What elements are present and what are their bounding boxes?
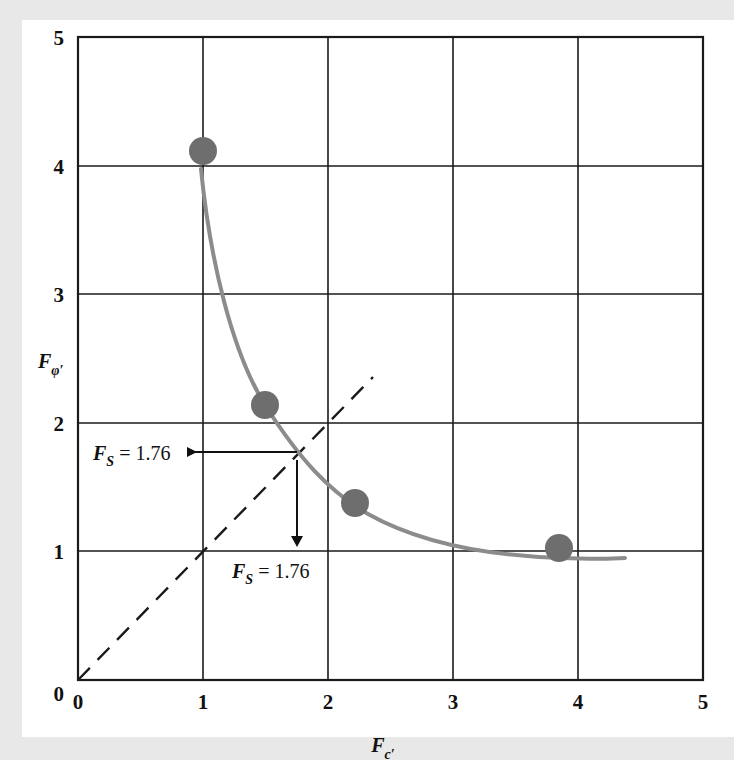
y-axis-title-sub: φ′ [51, 363, 63, 378]
data-point-2 [251, 391, 279, 419]
plot-frame [78, 37, 703, 680]
figure-page: FS = 1.76 FS = 1.76 5 4 3 2 1 0 0 1 2 3 … [0, 0, 734, 773]
x-axis-tick-labels: 0 1 2 3 4 5 [73, 690, 709, 714]
x-axis-title-lead: F [370, 734, 385, 756]
x-tick-label-4: 4 [573, 690, 584, 714]
x-tick-label-0: 0 [73, 690, 84, 714]
x-tick-label-2: 2 [323, 690, 334, 714]
y-tick-label-3: 3 [54, 283, 65, 307]
annotation-fs-v-lead: F [231, 560, 246, 582]
y-tick-label-0: 0 [54, 682, 65, 706]
x-axis-title-sub: c′ [385, 747, 395, 762]
annotation-fs-v-tail: = 1.76 [253, 560, 309, 582]
y-tick-label-5: 5 [54, 26, 65, 50]
data-point-3 [341, 489, 369, 517]
x-tick-label-1: 1 [198, 690, 209, 714]
annotation-fs-horizontal: FS = 1.76 [92, 442, 297, 469]
annotation-fs-h-lead: F [92, 442, 107, 464]
x-tick-label-5: 5 [698, 690, 709, 714]
data-point-4 [545, 534, 573, 562]
annotation-fs-vertical-text: FS = 1.76 [231, 560, 309, 587]
y-tick-label-1: 1 [54, 540, 65, 564]
y-tick-label-2: 2 [54, 412, 65, 436]
grid-lines [78, 37, 703, 680]
y-axis-title-lead: F [37, 350, 52, 372]
x-tick-label-3: 3 [448, 690, 459, 714]
annotation-fs-horizontal-text: FS = 1.76 [92, 442, 170, 469]
chart-svg: FS = 1.76 FS = 1.76 5 4 3 2 1 0 0 1 2 3 … [0, 0, 734, 773]
annotation-fs-v-sub: S [245, 572, 253, 587]
annotation-fs-h-tail: = 1.76 [114, 442, 170, 464]
data-point-markers [189, 137, 573, 562]
fphi-vs-fc-curve [201, 169, 625, 559]
annotation-fs-h-sub: S [106, 454, 114, 469]
x-axis-title: Fc′ [370, 734, 395, 762]
data-point-1 [189, 137, 217, 165]
y-tick-label-4: 4 [54, 155, 65, 179]
plot-border [78, 37, 703, 680]
y-axis-title: Fφ′ [37, 350, 64, 378]
annotation-fs-vertical: FS = 1.76 [231, 460, 309, 587]
